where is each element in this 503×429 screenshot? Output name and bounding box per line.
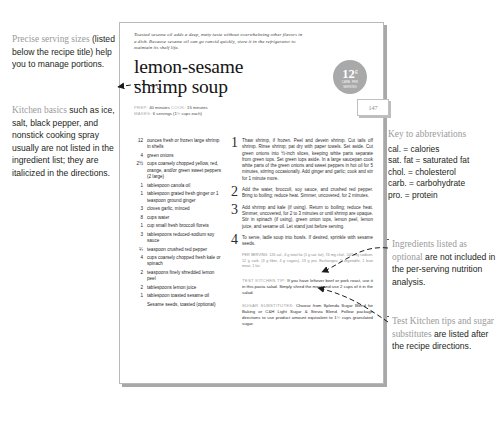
direction-step: 1 Thaw shrimp, if frozen. Peel and devei… — [231, 138, 373, 182]
callout-precise-serving-sizes: Precise serving sizes (listed below the … — [12, 33, 124, 71]
step-text: Add the water, broccoli, soy sauce, and … — [242, 187, 373, 200]
ingredient-row: 3tablespoons reduced-sodium soy sauce — [134, 232, 222, 245]
recipe-blurb: Toasted sesame oil adds a deep, nutty ta… — [134, 32, 306, 52]
ingredient-text: tablespoon toasted sesame oil — [147, 293, 222, 299]
recipe-meta: PREP: 40 minutes COOK: 15 minutes MAKES:… — [134, 105, 284, 117]
ingredient-text: tablespoon grated fresh ginger or 1 teas… — [147, 191, 222, 204]
directions-column: 1 Thaw shrimp, if frozen. Peel and devei… — [231, 138, 373, 375]
ingredient-row: 1cup small fresh broccoli florets — [134, 223, 222, 229]
ingredient-text: tablespoons lemon juice — [147, 285, 222, 291]
makes-label: MAKES: — [134, 111, 152, 116]
ingredient-row: Sesame seeds, toasted (optional) — [134, 302, 222, 308]
abbreviation-line: carb. = carbohydrate — [388, 178, 500, 190]
ingredient-text: green onions — [147, 153, 222, 159]
ingredient-text: tablespoon canola oil — [147, 183, 222, 189]
ingredient-text: cups water — [147, 215, 222, 221]
ingredient-text: cloves garlic, minced — [147, 206, 222, 212]
ingredient-amount: ¼ — [134, 247, 147, 253]
annotated-recipe-page-figure: Precise serving sizes (listed below the … — [0, 0, 503, 429]
ingredient-list: 12ounces fresh or frozen large shrimp in… — [134, 138, 222, 375]
callout-serving-lead: Precise serving sizes — [12, 34, 90, 44]
callout-abbrev-lead: Key to abbreviations — [388, 128, 500, 141]
test-kitchen-tip-heading: TEST KITCHEN TIP: — [242, 278, 286, 283]
abbreviation-line: pro. = protein — [388, 190, 500, 202]
test-kitchen-tip: TEST KITCHEN TIP: If you have leftover b… — [242, 278, 373, 296]
ingredient-amount: 4 — [134, 153, 147, 159]
ingredient-row: 3cloves garlic, minced — [134, 206, 222, 212]
ingredient-text: cups coarsely chopped fresh kale or spin… — [147, 255, 222, 268]
callout-key-to-abbreviations: Key to abbreviations cal. = calories sat… — [388, 128, 500, 202]
callout-basics-lead: Kitchen basics — [12, 105, 67, 115]
step-text: Add shrimp and kale (if using). Return t… — [242, 205, 373, 230]
ingredient-amount: 1 — [134, 223, 147, 229]
recipe-page: 147 12g CARB. PER SERVING Toasted sesame… — [119, 22, 384, 384]
ingredient-amount: 2 — [134, 285, 147, 291]
callout-kitchen-basics: Kitchen basics such as ice, salt, black … — [12, 104, 124, 180]
cook-label: COOK: — [171, 105, 186, 110]
ingredient-amount: 1 — [134, 183, 147, 189]
makes-value: 6 servings (1½ cups each) — [153, 111, 202, 116]
ingredient-text: teaspoon crushed red pepper — [147, 247, 222, 253]
nutrition-analysis: PER SERVING: 126 cal., 4 g total fat (1 … — [242, 253, 373, 269]
cook-value: 15 minutes — [187, 105, 207, 110]
ingredient-amount: 8 — [134, 215, 147, 221]
ingredient-amount: 3 — [134, 206, 147, 212]
ingredient-row: 1tablespoon canola oil — [134, 183, 222, 189]
ingredient-row: 4green onions — [134, 153, 222, 159]
ingredient-row: ¼teaspoon crushed red pepper — [134, 247, 222, 253]
badge-unit: g — [355, 68, 358, 74]
ingredient-row: 1tablespoon toasted sesame oil — [134, 293, 222, 299]
ingredient-row: 2teaspoons finely shredded lemon peel — [134, 270, 222, 283]
ingredient-row: 2tablespoons lemon juice — [134, 285, 222, 291]
ingredient-row: 12ounces fresh or frozen large shrimp in… — [134, 138, 222, 151]
direction-step: 2 Add the water, broccoli, soy sauce, an… — [231, 187, 373, 200]
ingredient-amount: 2½ — [134, 161, 147, 180]
step-number: 2 — [231, 186, 242, 200]
step-number: 4 — [231, 234, 242, 248]
prep-value: 40 minutes — [149, 105, 169, 110]
ingredient-amount: 4 — [134, 255, 147, 268]
ingredient-row: 2½cups coarsely chopped yellow, red, ora… — [134, 161, 222, 180]
abbreviation-line: chol. = cholesterol — [388, 167, 500, 179]
ingredient-text: teaspoons finely shredded lemon peel — [147, 270, 222, 283]
ingredient-row: 8cups water — [134, 215, 222, 221]
sugar-substitutes-heading: SUGAR SUBSTITUTES: — [242, 303, 294, 308]
step-text: To serve, ladle soup into bowls. If desi… — [242, 235, 373, 248]
ingredient-text: cups coarsely chopped yellow, red, orang… — [147, 161, 222, 180]
callout-optional-ingredients: Ingredients listed as optional are not i… — [392, 238, 497, 288]
prep-label: PREP: — [134, 105, 148, 110]
callout-test-kitchen-tips: Test Kitchen tips and sugar substitutes … — [392, 315, 497, 353]
ingredient-amount — [134, 302, 147, 308]
ingredient-row: 1tablespoon grated fresh ginger or 1 tea… — [134, 191, 222, 204]
badge-sub-line-2: SERVING — [343, 86, 356, 89]
carb-per-serving-badge: 12g CARB. PER SERVING — [333, 60, 367, 94]
ingredient-amount: 2 — [134, 270, 147, 283]
ingredient-text: ounces fresh or frozen large shrimp in s… — [147, 138, 222, 151]
badge-number: 12 — [342, 67, 355, 81]
ingredient-row: 4cups coarsely chopped fresh kale or spi… — [134, 255, 222, 268]
ingredient-amount: 12 — [134, 138, 147, 151]
badge-sub-line-1: CARB. PER — [342, 81, 358, 84]
direction-step: 3 Add shrimp and kale (if using). Return… — [231, 205, 373, 230]
step-number: 1 — [231, 137, 242, 182]
ingredient-text: cup small fresh broccoli florets — [147, 223, 222, 229]
ingredient-text: tablespoons reduced-sodium soy sauce — [147, 232, 222, 245]
abbreviation-line: sat. fat = saturated fat — [388, 155, 500, 167]
ingredient-amount: 3 — [134, 232, 147, 245]
callout-basics-rest: such as ice, salt, black pepper, and non… — [12, 105, 115, 178]
ingredient-text: Sesame seeds, toasted (optional) — [147, 302, 222, 308]
ingredient-amount: 1 — [134, 191, 147, 204]
ingredient-amount: 1 — [134, 293, 147, 299]
step-number: 3 — [231, 204, 242, 230]
abbreviation-line: cal. = calories — [388, 144, 500, 156]
step-text: Thaw shrimp, if frozen. Peel and devein … — [242, 138, 373, 182]
sugar-substitutes-tip: SUGAR SUBSTITUTES: Choose from Splenda S… — [242, 303, 373, 327]
direction-step: 4 To serve, ladle soup into bowls. If de… — [231, 235, 373, 248]
